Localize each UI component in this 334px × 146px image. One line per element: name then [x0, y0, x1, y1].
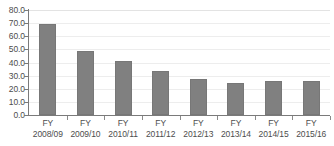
- y-axis-tick-label: 50.0: [0, 45, 25, 54]
- bar: [152, 71, 169, 115]
- gridline: [29, 102, 330, 103]
- gridline: [29, 76, 330, 77]
- x-axis-category-label: FY2011/12: [142, 118, 180, 140]
- x-axis-label-line2: 2015/16: [292, 129, 330, 140]
- x-axis-label-line2: 2014/15: [255, 129, 293, 140]
- x-axis-label-line2: 2010/11: [104, 129, 142, 140]
- x-axis-category-label: FY2014/15: [255, 118, 293, 140]
- bar: [115, 61, 132, 115]
- y-axis-tick-label: 60.0: [0, 32, 25, 41]
- y-axis-tick-label: 80.0: [0, 6, 25, 15]
- x-axis-category-labels: FY2008/09FY2009/10FY2010/11FY2011/12FY20…: [29, 118, 330, 146]
- x-axis-category-label: FY2010/11: [104, 118, 142, 140]
- x-axis-category-label: FY2008/09: [29, 118, 67, 140]
- x-axis-category-label: FY2009/10: [67, 118, 105, 140]
- x-axis-label-line2: 2008/09: [29, 129, 67, 140]
- gridline: [29, 36, 330, 37]
- bar: [77, 51, 94, 115]
- gridline: [29, 23, 330, 24]
- bar: [303, 81, 320, 115]
- x-axis-label-line1: FY: [104, 118, 142, 129]
- y-axis-tick-label: 30.0: [0, 71, 25, 80]
- x-axis-label-line2: 2013/14: [217, 129, 255, 140]
- gridline: [29, 63, 330, 64]
- x-axis-label-line1: FY: [255, 118, 293, 129]
- x-axis-label-line1: FY: [180, 118, 218, 129]
- y-axis-tick-label: 20.0: [0, 85, 25, 94]
- y-axis-line: [28, 9, 29, 116]
- x-axis-label-line1: FY: [292, 118, 330, 129]
- x-axis-line: [28, 115, 330, 116]
- gridline: [29, 89, 330, 90]
- x-axis-label-line2: 2012/13: [180, 129, 218, 140]
- gridline: [29, 49, 330, 50]
- y-axis-tick-label: 0.0: [0, 111, 25, 120]
- x-axis-label-line1: FY: [29, 118, 67, 129]
- x-axis-category-label: FY2012/13: [180, 118, 218, 140]
- x-axis-tick-mark: [330, 116, 331, 120]
- x-axis-category-label: FY2013/14: [217, 118, 255, 140]
- x-axis-label-line2: 2009/10: [67, 129, 105, 140]
- bar: [227, 83, 244, 115]
- bar-chart: 0.010.020.030.040.050.060.070.080.0 FY20…: [0, 0, 334, 146]
- gridline: [29, 10, 330, 11]
- x-axis-category-label: FY2015/16: [292, 118, 330, 140]
- y-axis-tick-label: 10.0: [0, 98, 25, 107]
- x-axis-label-line1: FY: [217, 118, 255, 129]
- x-axis-label-line2: 2011/12: [142, 129, 180, 140]
- x-axis-label-line1: FY: [142, 118, 180, 129]
- plot-area: [29, 10, 330, 115]
- y-axis-tick-label: 70.0: [0, 19, 25, 28]
- x-axis-label-line1: FY: [67, 118, 105, 129]
- y-axis-tick-labels: 0.010.020.030.040.050.060.070.080.0: [0, 0, 25, 146]
- bar: [39, 24, 56, 115]
- bar: [190, 79, 207, 115]
- bar: [265, 81, 282, 115]
- y-axis-tick-label: 40.0: [0, 58, 25, 67]
